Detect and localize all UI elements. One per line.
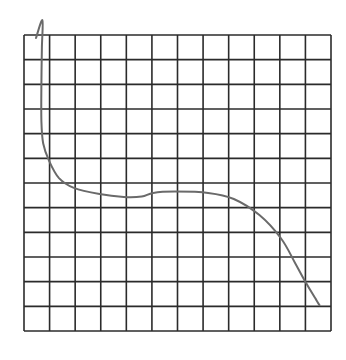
chart-grid [24,35,331,331]
line-chart [0,0,346,360]
